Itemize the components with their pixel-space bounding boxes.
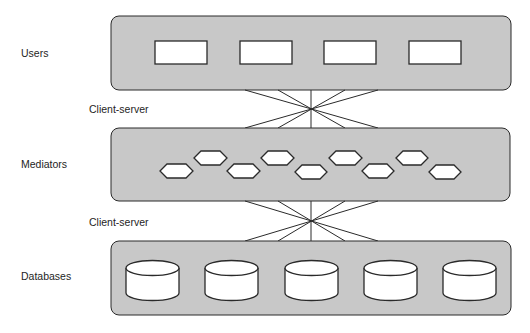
mediator-hexagon (396, 151, 428, 165)
database-cylinder (205, 261, 258, 301)
client-server-connector-1 (245, 90, 378, 128)
user-box (240, 41, 292, 64)
users-layer (111, 16, 511, 90)
database-cylinder (126, 261, 179, 301)
client-server-label-1: Client-server (89, 103, 149, 115)
mediator-hexagon (329, 151, 362, 165)
databases-layer (111, 241, 511, 315)
database-cylinder (443, 261, 496, 301)
user-box (155, 41, 207, 64)
client-server-connector-2 (245, 201, 378, 241)
client-server-label-2: Client-server (89, 216, 149, 228)
architecture-diagram (0, 0, 530, 333)
database-cylinder (285, 261, 338, 301)
users-label: Users (21, 47, 48, 59)
mediator-hexagon (227, 164, 260, 178)
mediator-hexagon (194, 151, 227, 165)
mediators-label: Mediators (21, 158, 67, 170)
mediator-hexagon (160, 164, 193, 178)
mediator-hexagon (429, 165, 461, 179)
user-box (324, 41, 376, 64)
databases-label: Databases (21, 270, 71, 282)
mediator-hexagon (261, 151, 294, 165)
database-cylinder (364, 261, 417, 301)
mediator-hexagon (295, 165, 327, 179)
user-box (409, 41, 461, 64)
mediator-hexagon (362, 164, 394, 178)
mediators-layer (111, 128, 510, 201)
